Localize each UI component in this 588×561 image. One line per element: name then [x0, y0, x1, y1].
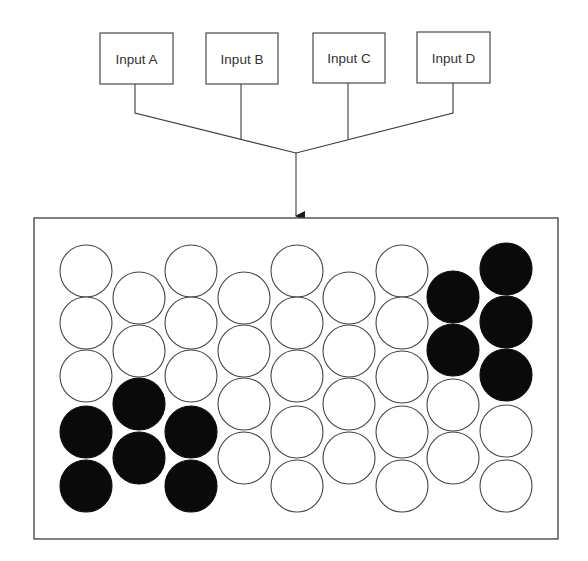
input-boxes: Input AInput BInput CInput D — [100, 32, 490, 84]
filled-cell — [60, 406, 112, 458]
empty-cell — [113, 325, 165, 377]
input-box-label: Input D — [432, 51, 476, 66]
input-box-label: Input B — [221, 52, 264, 67]
empty-cell — [218, 378, 270, 430]
input-box-label: Input C — [327, 51, 371, 66]
empty-cell — [218, 432, 270, 484]
empty-cell — [271, 460, 323, 512]
empty-cell — [427, 432, 479, 484]
filled-cell — [60, 460, 112, 512]
empty-cell — [376, 297, 428, 349]
empty-cell — [376, 245, 428, 297]
empty-cell — [60, 297, 112, 349]
input-box-label: Input A — [115, 52, 157, 67]
empty-cell — [60, 245, 112, 297]
input-box-a: Input A — [100, 33, 173, 84]
filled-cell — [113, 432, 165, 484]
empty-cell — [376, 351, 428, 403]
filled-cell — [480, 243, 532, 295]
empty-cell — [165, 245, 217, 297]
empty-cell — [218, 325, 270, 377]
filled-cell — [113, 378, 165, 430]
empty-cell — [323, 432, 375, 484]
empty-cell — [60, 350, 112, 402]
empty-cell — [323, 378, 375, 430]
empty-cell — [165, 350, 217, 402]
empty-cell — [165, 297, 217, 349]
empty-cell — [480, 460, 532, 512]
empty-cell — [271, 245, 323, 297]
empty-cell — [271, 350, 323, 402]
input-box-b: Input B — [206, 33, 278, 84]
filled-cell — [165, 406, 217, 458]
filled-cell — [165, 460, 217, 512]
filled-cell — [427, 324, 479, 376]
empty-cell — [323, 272, 375, 324]
empty-cell — [376, 460, 428, 512]
empty-cell — [480, 405, 532, 457]
connector-line — [135, 84, 296, 153]
empty-cell — [427, 379, 479, 431]
filled-cell — [427, 271, 479, 323]
input-box-d: Input D — [417, 32, 490, 83]
empty-cell — [218, 272, 270, 324]
filled-cell — [480, 349, 532, 401]
empty-cell — [271, 297, 323, 349]
input-box-c: Input C — [313, 33, 385, 83]
empty-cell — [376, 406, 428, 458]
input-merge-diagram: Input AInput BInput CInput D — [0, 0, 588, 561]
empty-cell — [323, 325, 375, 377]
empty-cell — [113, 272, 165, 324]
filled-cell — [480, 296, 532, 348]
empty-cell — [271, 406, 323, 458]
connector-lines — [135, 83, 453, 153]
connector-line — [296, 83, 453, 153]
